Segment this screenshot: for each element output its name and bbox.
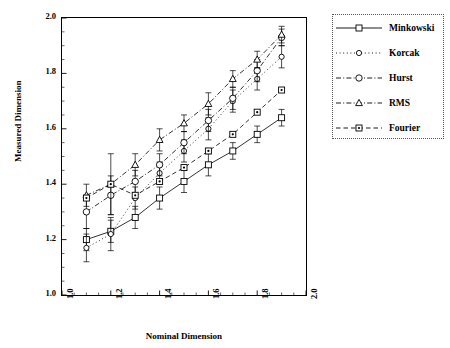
y-tick-1.6: 1.6 [26,122,56,132]
legend-item-minkowski[interactable]: Minkowski [333,15,443,40]
x-tick-1.4: 1.4 [163,288,173,299]
y-tick-1.2: 1.2 [26,233,56,243]
plot-area [61,17,307,296]
legend-label: Hurst [385,73,413,83]
y-tick-2.0: 2.0 [26,11,56,21]
x-tick-1.2: 1.2 [114,288,124,299]
x-tick-1.0: 1.0 [65,288,75,299]
legend-swatch-hurst [333,69,385,87]
plot-svg [62,18,306,295]
legend-swatch-rms [333,94,385,112]
legend-label: Fourier [385,123,420,133]
legend: Minkowski Korcak Hurst RMS Fourier [332,14,444,139]
x-tick-1.6: 1.6 [211,288,221,299]
chart-figure: Measured Dimension 1.01.21.41.61.82.0 1.… [0,0,450,348]
legend-item-hurst[interactable]: Hurst [333,65,443,90]
y-tick-1.0: 1.0 [26,288,56,298]
x-axis-title: Nominal Dimension [61,331,307,341]
legend-label: Minkowski [385,23,434,33]
x-tick-2.0: 2.0 [309,288,319,299]
legend-swatch-korcak [333,44,385,62]
legend-item-fourier[interactable]: Fourier [333,115,443,140]
legend-item-rms[interactable]: RMS [333,90,443,115]
legend-swatch-minkowski [333,19,385,37]
y-axis-title: Measured Dimension [9,86,19,100]
y-tick-1.8: 1.8 [26,66,56,76]
legend-swatch-fourier [333,119,385,137]
legend-item-korcak[interactable]: Korcak [333,40,443,65]
legend-label: RMS [385,98,410,108]
y-tick-1.4: 1.4 [26,177,56,187]
legend-label: Korcak [385,48,419,58]
x-tick-1.8: 1.8 [260,288,270,299]
